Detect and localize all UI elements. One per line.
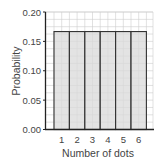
- bar-6: [131, 32, 146, 130]
- bar-1: [54, 32, 69, 130]
- y-tick-label: 0.15: [23, 36, 42, 47]
- x-tick-label: 4: [105, 134, 110, 145]
- y-tick-label: 0.20: [23, 7, 42, 18]
- bar-4: [100, 32, 115, 130]
- probability-bar-chart: 0.000.050.100.150.20 123456 Number of do…: [0, 0, 157, 160]
- x-axis-label: Number of dots: [62, 147, 134, 159]
- x-tick-label: 5: [121, 134, 126, 145]
- y-tick-labels: 0.000.050.100.150.20: [23, 7, 46, 136]
- x-tick-label: 2: [74, 134, 79, 145]
- x-tick-label: 6: [136, 134, 141, 145]
- y-axis-label: Probability: [10, 46, 22, 96]
- x-tick-labels: 123456: [59, 134, 141, 145]
- bar-2: [69, 32, 84, 130]
- x-tick-label: 1: [59, 134, 64, 145]
- x-tick-label: 3: [90, 134, 95, 145]
- y-tick-label: 0.05: [23, 95, 42, 106]
- y-tick-label: 0.00: [23, 124, 42, 135]
- y-tick-label: 0.10: [23, 65, 42, 76]
- bars: [54, 32, 146, 130]
- bar-5: [116, 32, 131, 130]
- bar-3: [85, 32, 100, 130]
